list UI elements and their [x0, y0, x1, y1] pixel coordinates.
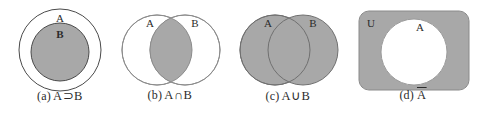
panel-b-caption: (b)A∩B [110, 88, 230, 103]
panel-c-union: A B (c)A∪B [228, 0, 348, 114]
panel-a-index: (a) [37, 89, 51, 103]
panel-c-diagram: A B [228, 0, 348, 95]
label-b: B [309, 17, 316, 29]
panel-a-caption: (a)A⊃B [0, 88, 120, 104]
venn-diagram-figure: A B (a)A⊃B A B (b)A∩B [0, 0, 477, 114]
label-b: B [191, 17, 198, 29]
panel-b-expression: A∩B [164, 88, 192, 102]
circle-b-shaded [268, 15, 338, 85]
panel-c-caption: (c)A∪B [228, 88, 348, 104]
panel-b-diagram: A B [110, 0, 230, 95]
label-a: A [416, 21, 424, 33]
label-b: B [56, 28, 64, 40]
label-u: U [367, 17, 375, 29]
panel-d-caption: (d)A [350, 88, 477, 103]
panel-d-diagram: U A [350, 0, 477, 95]
label-a: A [146, 17, 154, 29]
panel-a-diagram: A B [0, 0, 120, 95]
panel-c-expression: A∪B [281, 89, 310, 103]
label-a: A [56, 12, 64, 24]
panel-a-expression: A⊃B [53, 89, 83, 103]
panel-d-expression: A [416, 88, 428, 102]
panel-d-complement: U A (d)A [350, 0, 477, 114]
panel-b-index: (b) [148, 88, 163, 102]
panel-b-intersection: A B (b)A∩B [110, 0, 230, 114]
circle-a-unshaded [381, 19, 447, 85]
panel-d-index: (d) [399, 88, 414, 102]
label-a: A [264, 17, 272, 29]
panel-c-index: (c) [265, 89, 279, 103]
panel-a-subset: A B (a)A⊃B [0, 0, 120, 114]
